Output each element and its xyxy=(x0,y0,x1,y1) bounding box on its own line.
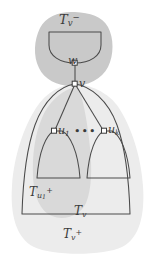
label-ellipsis: ••• xyxy=(74,126,96,137)
label-tu1-plus-sup: + xyxy=(46,186,53,195)
label-tu1-plus-base: T xyxy=(29,185,37,199)
label-tu1-plus-sub: u1 xyxy=(37,191,46,200)
label-tv: Tv xyxy=(74,205,86,219)
label-tv-plus-sup: + xyxy=(75,228,82,237)
label-tv-minus-sup: − xyxy=(73,12,80,22)
label-u1: u1 xyxy=(58,125,70,137)
label-u1-sub: 1 xyxy=(65,129,70,138)
tree-decomposition-figure: Tv− w v u1 ••• uk Tu1+ Tv Tv+ xyxy=(0,0,153,257)
label-uk: uk xyxy=(108,124,120,136)
label-tv-plus: Tv+ xyxy=(63,228,82,242)
label-tv-sub: v xyxy=(82,210,86,219)
label-uk-sub: k xyxy=(115,128,119,137)
node-u1 xyxy=(52,128,57,133)
label-tv-plus-base: T xyxy=(63,227,71,241)
label-tv-minus: Tv− xyxy=(59,13,80,28)
node-v xyxy=(72,81,77,86)
label-tv-base: T xyxy=(74,204,82,218)
label-w: w xyxy=(68,55,77,66)
label-tu1-plus: Tu1+ xyxy=(29,186,53,201)
label-v: v xyxy=(79,78,85,89)
node-uk xyxy=(102,128,107,133)
label-tv-minus-base: T xyxy=(59,12,68,27)
